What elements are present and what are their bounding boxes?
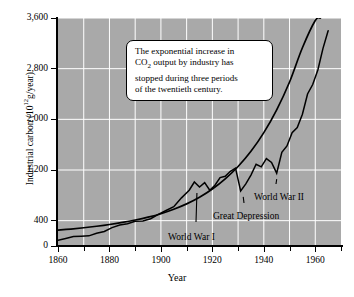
x-tick-mark-major [109,247,110,252]
y-axis-title-exponent: 12 [22,99,29,106]
x-tick-mark-major [161,247,162,252]
x-tick-label: 1900 [141,255,181,265]
x-tick-mark-minor [84,247,85,251]
y-axis-title-base: Industrial carbon (10 [25,105,35,185]
x-tick-label: 1940 [244,255,284,265]
callout-line-1: The exponential increase in [135,46,234,56]
x-axis-title: Year [0,272,354,283]
callout-line-4: of the twentieth century. [135,84,222,94]
y-axis-title: Industrial carbon (1012g/year) [21,39,34,219]
x-tick-label: 1860 [38,255,78,265]
y-tick-mark [51,18,57,19]
callout-box: The exponential increase in CO2 output b… [126,40,273,101]
x-tick-mark-minor [238,247,239,251]
x-tick-mark-minor [135,247,136,251]
x-tick-label: 1880 [89,255,129,265]
x-tick-label: 1920 [192,255,232,265]
x-tick-mark-major [264,247,265,252]
callout-line-2-b: output by industry has [151,57,234,67]
y-tick-mark [51,246,57,247]
x-tick-mark-minor [341,247,342,251]
x-tick-mark-minor [187,247,188,251]
x-tick-mark-major [315,247,316,252]
annotation-world-war-1: World War I [168,232,215,242]
callout-line-3: stopped during three periods [135,73,238,83]
y-axis-title-tail: g/year) [25,72,35,99]
y-tick-label: 0 [43,241,48,251]
chart-figure: 04001,2002,0002,8003,600 186018801900192… [0,0,354,297]
y-tick-mark [51,220,57,221]
annotation-great-depression: Great Depression [213,211,279,221]
x-axis-spine [56,245,343,247]
x-tick-label: 1960 [295,255,335,265]
x-tick-mark-minor [290,247,291,251]
y-tick-mark [51,119,57,120]
annotation-world-war-2: World War II [254,192,304,202]
x-tick-mark-major [58,247,59,252]
y-tick-label: 400 [34,216,48,226]
y-axis-spine [56,17,58,247]
y-tick-mark [51,170,57,171]
y-tick-mark [51,68,57,69]
callout-line-2-a: CO [135,57,148,67]
y-tick-label: 3,600 [27,13,48,23]
x-tick-mark-major [212,247,213,252]
